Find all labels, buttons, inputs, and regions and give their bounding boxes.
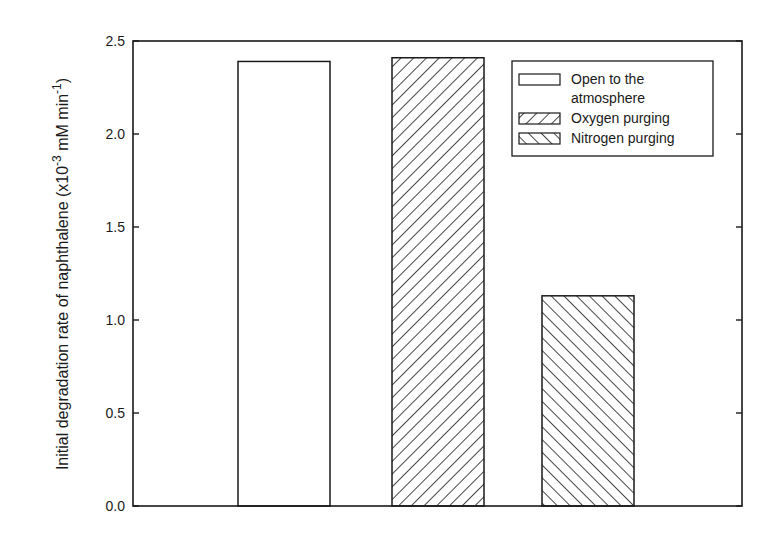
legend: Open to the atmosphere Oxygen purging Ni… xyxy=(512,61,713,156)
bar-nitrogen-purging xyxy=(542,296,634,506)
bar-open-to-atmosphere xyxy=(238,61,330,506)
y-tick-label: 0.5 xyxy=(106,405,126,421)
bar-oxygen-purging xyxy=(392,58,484,506)
legend-label-open-line1: Open to the xyxy=(571,71,644,87)
y-axis-title: Initial degradation rate of naphthalene … xyxy=(50,78,71,470)
legend-swatch-oxygen xyxy=(519,113,560,124)
y-tick-label: 2.5 xyxy=(106,33,126,49)
bar-chart: 0.00.51.01.52.02.5 Initial degradation r… xyxy=(0,0,783,540)
legend-swatch-nitrogen xyxy=(519,133,560,144)
y-tick-label: 1.5 xyxy=(106,219,126,235)
y-tick-label: 0.0 xyxy=(106,498,126,514)
legend-label-open-line2: atmosphere xyxy=(571,90,645,106)
legend-label-oxygen: Oxygen purging xyxy=(571,110,670,126)
legend-label-nitrogen: Nitrogen purging xyxy=(571,130,675,146)
y-tick-label: 2.0 xyxy=(106,126,126,142)
legend-swatch-open xyxy=(519,74,560,85)
y-tick-label: 1.0 xyxy=(106,312,126,328)
